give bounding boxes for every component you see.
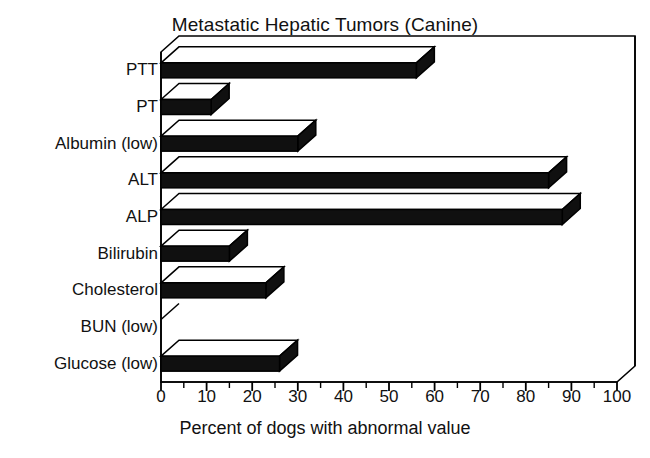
bar-pt: [161, 84, 229, 115]
x-axis-tick-label: 10: [197, 387, 216, 407]
x-axis-tick-label: 30: [288, 387, 307, 407]
x-axis-tick-label: 60: [425, 387, 444, 407]
y-axis-label-pt: PT: [136, 97, 158, 117]
x-axis-tick-label: 20: [243, 387, 262, 407]
y-axis-label-glucose-low: Glucose (low): [54, 354, 158, 374]
y-axis-label-albumin-low: Albumin (low): [55, 134, 158, 154]
x-axis-tick-label: 0: [156, 387, 165, 407]
y-axis-label-alt: ALT: [128, 170, 158, 190]
y-axis-tick-labels: PTTPTAlbumin (low)ALTALPBilirubinCholest…: [0, 0, 158, 458]
bar-alp: [161, 194, 580, 225]
x-axis-tick-label: 50: [380, 387, 399, 407]
bar-alt: [161, 157, 567, 188]
x-axis-tick-label: 100: [603, 387, 631, 407]
y-axis-label-cholesterol: Cholesterol: [72, 280, 158, 300]
bar-bun-low: [161, 304, 179, 320]
scan-artifact: [498, 0, 618, 12]
x-axis-tick-label: 40: [334, 387, 353, 407]
y-axis-label-bun-low: BUN (low): [81, 317, 158, 337]
x-axis-tick-label: 90: [562, 387, 581, 407]
bar-albumin-low: [161, 120, 316, 151]
y-axis-label-bilirubin: Bilirubin: [98, 244, 158, 264]
bar-bilirubin: [161, 230, 247, 261]
bar-ptt: [161, 47, 434, 78]
y-axis-label-alp: ALP: [126, 207, 158, 227]
bars-group: [161, 47, 580, 371]
y-axis-label-ptt: PTT: [126, 60, 158, 80]
bar-cholesterol: [161, 267, 284, 298]
x-axis-tick-label: 80: [516, 387, 535, 407]
x-axis-tick-label: 70: [471, 387, 490, 407]
x-axis-title: Percent of dogs with abnormal value: [0, 418, 650, 439]
chart-figure: Metastatic Hepatic Tumors (Canine) PTTPT…: [0, 0, 650, 458]
bar-glucose-low: [161, 340, 298, 371]
